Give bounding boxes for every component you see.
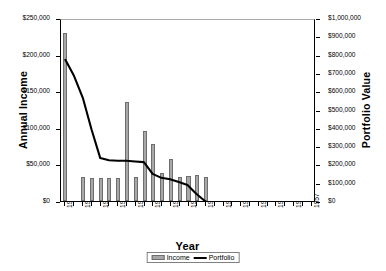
income-bar — [134, 177, 138, 201]
y-axis-right-tick-mark — [316, 74, 320, 75]
legend-line-swatch-icon — [194, 257, 207, 259]
income-bar — [195, 175, 199, 201]
x-axis-tick-mark — [258, 202, 259, 206]
y-axis-right-tick-mark — [316, 111, 320, 112]
bars-layer — [61, 20, 314, 201]
x-axis-tick-mark — [82, 202, 83, 206]
legend-item-portfolio: Portfolio — [194, 254, 235, 261]
income-bar — [63, 33, 67, 201]
plot-area — [60, 19, 315, 202]
y-axis-right-tick-mark — [316, 184, 320, 185]
legend-item-income-label: Income — [167, 254, 190, 261]
income-bar — [99, 178, 103, 201]
x-axis-tick-mark — [100, 202, 101, 206]
y-axis-right-tick-mark — [316, 19, 320, 20]
income-bar — [204, 177, 208, 201]
income-bar — [125, 102, 129, 201]
legend-bar-swatch-icon — [152, 255, 165, 260]
income-bar — [169, 159, 173, 201]
y-axis-right-tick-mark — [316, 147, 320, 148]
y-axis-left-tick-mark — [56, 202, 60, 203]
x-axis-tick-mark — [311, 202, 312, 206]
x-axis-title: Year — [60, 240, 315, 252]
y-axis-right-tick-mark — [316, 92, 320, 93]
y-axis-right-tick-mark — [316, 165, 320, 166]
income-bar — [160, 173, 164, 201]
y-axis-right-tick-mark — [316, 129, 320, 130]
income-bar — [186, 176, 190, 201]
income-bar — [143, 131, 147, 201]
income-bar — [107, 178, 111, 201]
income-bar — [81, 177, 85, 201]
legend-item-portfolio-label: Portfolio — [209, 254, 235, 261]
income-bar — [151, 144, 155, 201]
y-axis-right-tick-mark — [316, 56, 320, 57]
x-axis-tick-mark — [135, 202, 136, 206]
x-axis-tick-mark — [188, 202, 189, 206]
income-bar — [90, 178, 94, 201]
x-axis-tick-mark — [293, 202, 294, 206]
x-axis-tick-mark — [117, 202, 118, 206]
income-bar — [116, 178, 120, 201]
legend-item-income: Income — [152, 254, 190, 261]
y-axis-right-tick-mark — [316, 37, 320, 38]
x-axis-tick-mark — [223, 202, 224, 206]
income-bar — [178, 177, 182, 201]
x-axis-tick-mark — [205, 202, 206, 206]
chart-container: Annual Income Portfolio Value $0$50,000$… — [0, 0, 386, 271]
x-axis-tick-mark — [170, 202, 171, 206]
chart-legend: Income Portfolio — [147, 252, 240, 263]
